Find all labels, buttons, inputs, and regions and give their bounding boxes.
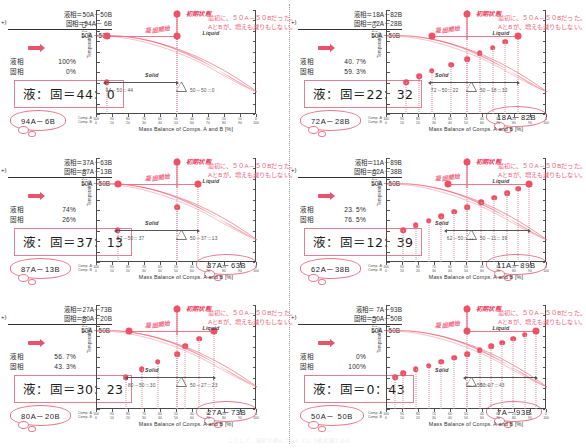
gridline-vertical bbox=[502, 343, 503, 410]
x-ticks: 1000901080207030604050504060307020801090… bbox=[386, 409, 546, 417]
x-tick-b: 80 bbox=[222, 121, 226, 125]
fulcrum-icon bbox=[176, 82, 186, 90]
x-axis-label: Mass Balance of Comps. A and B [%] bbox=[396, 126, 556, 132]
solid-phase-label: 固相 bbox=[300, 362, 326, 372]
tie-line bbox=[448, 184, 530, 185]
x-tick-b: 0 bbox=[95, 416, 97, 420]
solid-phase-percent: 0% bbox=[36, 67, 76, 77]
axis-row-labels: Comp. A Comp. B bbox=[368, 116, 382, 124]
y-axis-label-secondary: Temperature bbox=[87, 32, 92, 58]
axis-row-label-b: Comp. B bbox=[368, 268, 382, 272]
solid-region-label: Solid bbox=[435, 72, 449, 78]
x-tick-b: 50 bbox=[174, 269, 178, 273]
axis-row-labels: Comp. A Comp. B bbox=[368, 264, 382, 272]
callout-left: 72A－28B bbox=[300, 110, 361, 131]
phase-diagram-chart: Liquid Solid 凝固開始 初期状態 最初に、５０A－５０Bだった。 A… bbox=[96, 158, 280, 282]
lever-bar bbox=[447, 230, 529, 231]
annotation-note: 最初に、５０A－５０Bだった。 AとBが、増えも減りもしない。 bbox=[208, 14, 296, 31]
phase-diagram-chart: Liquid Solid 凝固開始 初期状態 最初に、５０A－５０Bだった。 A… bbox=[96, 305, 280, 429]
gridline-vertical bbox=[141, 369, 142, 409]
y-axis-label-secondary: Temperature bbox=[377, 327, 382, 353]
initial-state-point bbox=[174, 11, 181, 18]
lever-left-value: 72－50＝22 bbox=[431, 86, 459, 93]
gridline-vertical bbox=[507, 193, 508, 262]
x-tick-b: 50 bbox=[174, 416, 178, 420]
x-tick-b: 80 bbox=[512, 416, 516, 420]
initial-state-point bbox=[464, 159, 471, 166]
x-tick-b: 30 bbox=[432, 416, 436, 420]
gridline-vertical bbox=[403, 373, 404, 409]
annotation-note-line1: 最初に、５０A－５０Bだった。 bbox=[498, 309, 586, 318]
lever-right-value: 50－50＝0 bbox=[190, 86, 215, 93]
lever-bar bbox=[106, 82, 176, 83]
fulcrum-icon bbox=[176, 377, 186, 385]
x-tick-b: 50 bbox=[464, 416, 468, 420]
x-tick-b: 90 bbox=[528, 121, 532, 125]
x-tick-b: 60 bbox=[190, 269, 194, 273]
gridline-vertical bbox=[479, 53, 480, 114]
callout-left: 80A－20B bbox=[10, 405, 71, 426]
x-tick-b: 10 bbox=[400, 121, 404, 125]
tie-line bbox=[432, 36, 518, 37]
lever-right-value: 50－27＝23 bbox=[190, 381, 218, 388]
x-tick-b: 100 bbox=[253, 416, 259, 420]
callout-left: 87A－13B bbox=[10, 258, 71, 279]
axis-row-labels: Comp. A Comp. B bbox=[78, 264, 92, 272]
gridline-vertical bbox=[479, 350, 480, 409]
axis-row-labels: Comp. A Comp. B bbox=[78, 116, 92, 124]
annotation-note-line2: AとBが、増えも減りもしない。 bbox=[208, 23, 296, 32]
panel-2: +) 液相＝18A－82B 固相＝72A－28B 50A－50B 液相 40. … bbox=[290, 2, 579, 151]
liquid-phase-label: 液相 bbox=[300, 205, 326, 215]
x-tick-b: 10 bbox=[110, 416, 114, 420]
annotation-note-line2: AとBが、増えも減りもしない。 bbox=[208, 318, 296, 327]
x-tick-b: 50 bbox=[464, 121, 468, 125]
liquidus-point bbox=[194, 181, 201, 188]
initial-state-point bbox=[174, 306, 181, 313]
x-tick-b: 20 bbox=[126, 269, 130, 273]
solid-phase-label: 固相 bbox=[300, 215, 326, 225]
liquidus-point bbox=[515, 33, 522, 40]
plus-sign: +) bbox=[1, 19, 7, 25]
x-tick-b: 60 bbox=[480, 121, 484, 125]
solid-phase-percent: 59. 3% bbox=[326, 67, 366, 77]
fulcrum-icon bbox=[466, 230, 476, 238]
x-tick-b: 10 bbox=[110, 269, 114, 273]
phase-diagram-chart: Liquid Solid 凝固開始 初期状態 最初に、５０A－５０Bだった。 A… bbox=[386, 158, 570, 282]
phase-fraction-table: 液相 23. 5% 固相 76. 5% bbox=[300, 205, 366, 225]
liquid-phase-label: 液相 bbox=[10, 205, 36, 215]
gridline-vertical bbox=[535, 331, 536, 409]
y-ticks-left bbox=[97, 305, 105, 409]
gridline-vertical bbox=[428, 221, 429, 262]
solid-phase-percent: 100% bbox=[326, 362, 366, 372]
x-tick-b: 40 bbox=[448, 121, 452, 125]
initial-state-point bbox=[464, 306, 471, 313]
lever-right-value: 50－18＝32 bbox=[480, 86, 508, 93]
gridline-vertical bbox=[197, 184, 198, 262]
x-tick-b: 100 bbox=[543, 121, 549, 125]
x-tick-b: 60 bbox=[480, 269, 484, 273]
liquid-phase-label: 液相 bbox=[300, 57, 326, 67]
x-tick-b: 70 bbox=[496, 416, 500, 420]
x-ticks: 1000901080207030604050504060307020801090… bbox=[96, 262, 256, 270]
lever-right-value: 50－11＝39 bbox=[480, 234, 507, 241]
liquidus-point bbox=[532, 328, 539, 335]
x-tick-b: 100 bbox=[543, 269, 549, 273]
x-axis-label: Mass Balance of Comps. A and B [%] bbox=[396, 274, 556, 280]
solid-phase-percent: 43. 3% bbox=[36, 362, 76, 372]
solid-phase-label: 固相 bbox=[300, 67, 326, 77]
x-ticks: 1000901080207030604050504060307020801090… bbox=[96, 409, 256, 417]
x-tick-b: 30 bbox=[142, 121, 146, 125]
liquidus-point bbox=[526, 181, 533, 188]
x-tick-b: 20 bbox=[416, 416, 420, 420]
x-tick-b: 0 bbox=[385, 121, 387, 125]
axis-row-label-b: Comp. B bbox=[368, 415, 382, 419]
x-tick-b: 70 bbox=[496, 121, 500, 125]
x-tick-b: 30 bbox=[432, 269, 436, 273]
y-ticks-left bbox=[387, 158, 395, 262]
panel-3: +) 液相＝37A－63B 固相＝87A－13B 50A－50B 液相 74% … bbox=[0, 150, 289, 299]
annotation-note: 最初に、５０A－５０Bだった。 AとBが、増えも減りもしない。 bbox=[498, 162, 586, 179]
axis-row-labels: Comp. A Comp. B bbox=[368, 411, 382, 419]
lever-left-value: 94－50＝44 bbox=[106, 86, 134, 93]
x-tick-b: 40 bbox=[448, 269, 452, 273]
lever-left-value: 87－50＝37 bbox=[117, 234, 145, 241]
